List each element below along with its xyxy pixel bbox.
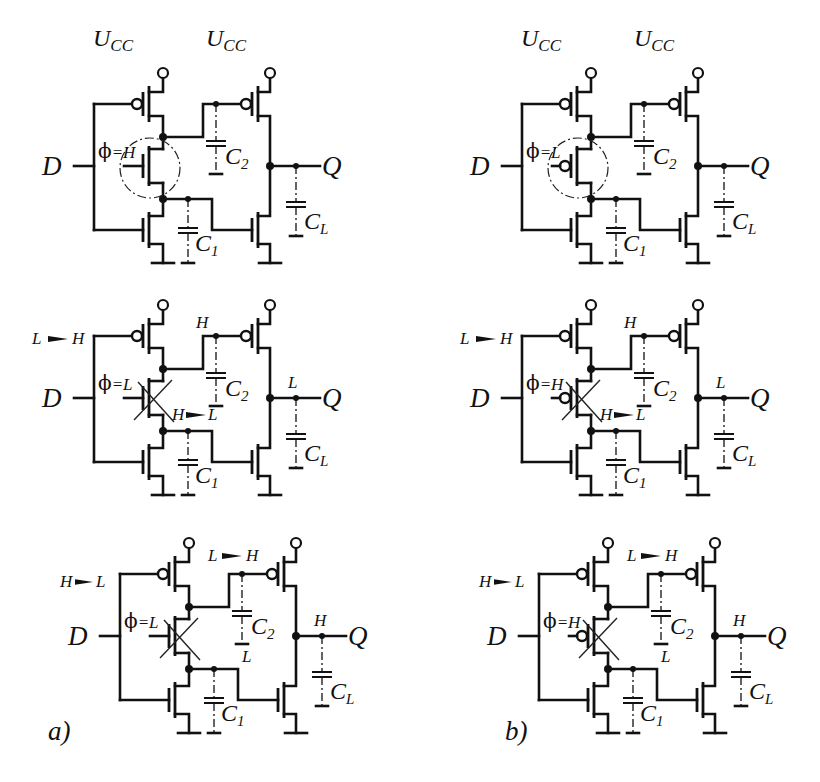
supply-label-2: UCC — [206, 25, 247, 55]
c1-label: C1 — [640, 700, 664, 729]
phi-label: ϕ=L — [526, 139, 561, 163]
node2-state: H — [623, 313, 638, 332]
panel-b1: D Q UCC UCC ϕ=L C2 C1 CL — [469, 25, 770, 263]
phi-label: ϕ=H — [543, 609, 582, 633]
c2-label: C2 — [653, 375, 677, 404]
svg-text:H: H — [499, 329, 514, 348]
svg-text:H: H — [71, 329, 86, 348]
c2-label: C2 — [670, 613, 694, 642]
c2-label: C2 — [251, 613, 275, 642]
d-transition: L H — [459, 329, 514, 348]
c1-label: C1 — [623, 462, 647, 491]
c2-label: C2 — [225, 143, 249, 172]
c1-label: C1 — [221, 700, 245, 729]
phi-label: ϕ=L — [98, 371, 133, 395]
svg-text:L: L — [514, 572, 524, 591]
node2-transition: L H — [626, 546, 679, 565]
svg-text:L: L — [207, 405, 217, 424]
node2-state: H — [195, 313, 210, 332]
svg-text:H: H — [599, 405, 614, 424]
node1-state: L — [241, 647, 251, 666]
panel-a1: D Q UCC UCC ϕ=H C2 C1 CL — [41, 25, 342, 263]
cl-label: CL — [732, 440, 756, 469]
svg-text:H: H — [245, 546, 260, 565]
panel-b2: D Q ϕ=H L H H H L L C2 C1 CL — [459, 300, 770, 495]
node1-transition: H L — [599, 405, 645, 424]
supply-label-1: UCC — [93, 25, 134, 55]
d-transition: H L — [59, 572, 105, 591]
input-label-d: D — [41, 383, 62, 413]
panel-b3: D Q ϕ=H H L L H L H C2 C1 CL — [478, 538, 787, 733]
svg-text:L: L — [31, 329, 41, 348]
caption-a: a) — [48, 716, 71, 746]
input-label-d: D — [41, 151, 62, 181]
supply-label-1: UCC — [521, 25, 562, 55]
c1-label: C1 — [195, 462, 219, 491]
node1-transition: H L — [171, 405, 217, 424]
c2-label: C2 — [225, 375, 249, 404]
svg-text:L: L — [95, 572, 105, 591]
output-label-q: Q — [750, 151, 770, 181]
output-label-q: Q — [750, 383, 770, 413]
phi-label: ϕ=H — [526, 371, 565, 395]
input-label-d: D — [67, 621, 88, 651]
phi-label: ϕ=L — [124, 609, 159, 633]
c2-label: C2 — [653, 143, 677, 172]
cl-label: CL — [304, 440, 328, 469]
q-state: L — [287, 373, 297, 392]
d-transition: H L — [478, 572, 524, 591]
node1-state: L — [660, 647, 670, 666]
output-label-q: Q — [767, 621, 787, 651]
cl-label: CL — [304, 208, 328, 237]
circuit-diagram: D Q UCC UCC ϕ=H C2 C1 CL D Q UCC UCC ϕ=L… — [0, 0, 820, 782]
node2-transition: L H — [207, 546, 260, 565]
cl-label: CL — [732, 208, 756, 237]
input-label-d: D — [469, 151, 490, 181]
c1-label: C1 — [195, 230, 219, 259]
input-label-d: D — [469, 383, 490, 413]
cl-label: CL — [330, 678, 354, 707]
input-label-d: D — [486, 621, 507, 651]
output-label-q: Q — [348, 621, 368, 651]
svg-text:L: L — [626, 546, 636, 565]
panel-a3: D Q ϕ=L H L L H L H C2 C1 CL — [59, 538, 368, 733]
q-state: L — [715, 373, 725, 392]
svg-text:L: L — [635, 405, 645, 424]
supply-label-2: UCC — [634, 25, 675, 55]
phi-label: ϕ=H — [98, 139, 137, 163]
svg-text:H: H — [171, 405, 186, 424]
svg-text:H: H — [59, 572, 74, 591]
svg-text:H: H — [664, 546, 679, 565]
output-label-q: Q — [322, 383, 342, 413]
svg-text:H: H — [478, 572, 493, 591]
caption-b: b) — [505, 716, 528, 746]
cl-label: CL — [749, 678, 773, 707]
panel-a2: D Q ϕ=L L H H H L L C2 C1 CL — [31, 300, 342, 495]
output-label-q: Q — [322, 151, 342, 181]
svg-text:L: L — [459, 329, 469, 348]
q-state: H — [313, 611, 328, 630]
q-state: H — [732, 611, 747, 630]
d-transition: L H — [31, 329, 86, 348]
svg-text:L: L — [207, 546, 217, 565]
c1-label: C1 — [623, 230, 647, 259]
